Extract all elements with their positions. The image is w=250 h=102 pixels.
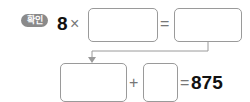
multiplicand: 8 xyxy=(57,14,68,34)
equals-sign-1: = xyxy=(160,14,169,34)
answer-box-3[interactable] xyxy=(60,63,127,102)
result-value: 875 xyxy=(191,73,223,93)
plus-sign: + xyxy=(129,73,138,93)
answer-box-1[interactable] xyxy=(88,8,158,42)
equals-sign-2: = xyxy=(180,73,189,93)
answer-box-4[interactable] xyxy=(143,63,178,102)
check-badge: 확인 xyxy=(21,14,48,27)
times-sign: × xyxy=(70,14,79,34)
answer-box-2[interactable] xyxy=(174,8,242,42)
